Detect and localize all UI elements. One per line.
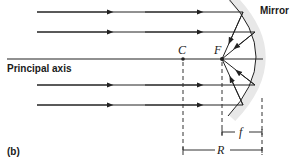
figure-part-label: (b) bbox=[7, 146, 20, 157]
center-of-curvature-label: C bbox=[178, 43, 187, 57]
principal-axis-label: Principal axis bbox=[7, 63, 72, 74]
dashed-guides bbox=[183, 62, 262, 155]
center-of-curvature-point bbox=[181, 57, 185, 61]
mirror-label: Mirror bbox=[260, 5, 289, 16]
concave-mirror-diagram: f R C F Mirror Principal axis (b) bbox=[0, 0, 295, 163]
focal-point bbox=[220, 57, 224, 61]
focal-point-label: F bbox=[213, 43, 222, 57]
focal-length-label: f bbox=[239, 125, 244, 139]
radius-label: R bbox=[216, 143, 225, 157]
